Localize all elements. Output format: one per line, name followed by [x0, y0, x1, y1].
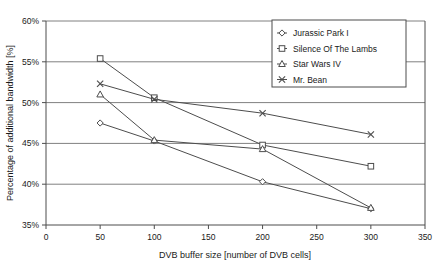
x-tick-label: 0 — [44, 232, 49, 242]
y-axis-title: Percentage of additional bandwidth [%] — [5, 45, 15, 201]
line-chart: 35%40%45%50%55%60% 050100150200250300350… — [0, 0, 438, 267]
legend-label: Jurassic Park I — [293, 28, 349, 38]
y-tick-label: 40% — [22, 179, 39, 189]
data-point-marker — [368, 163, 374, 169]
legend-label: Mr. Bean — [293, 75, 327, 85]
y-tick-label: 35% — [22, 220, 39, 230]
data-point-marker — [97, 56, 103, 62]
y-tick-label: 55% — [22, 57, 39, 67]
chart-container: 35%40%45%50%55%60% 050100150200250300350… — [0, 0, 438, 267]
legend-marker-square — [279, 46, 285, 52]
x-tick-label: 200 — [255, 232, 269, 242]
x-tick-label: 100 — [147, 232, 161, 242]
x-tick-label: 250 — [310, 232, 324, 242]
x-tick-label: 300 — [364, 232, 378, 242]
y-tick-label: 50% — [22, 98, 39, 108]
x-axis-title: DVB buffer size [number of DVB cells] — [159, 250, 311, 260]
y-tick-label: 45% — [22, 138, 39, 148]
x-tick-label: 50 — [95, 232, 105, 242]
legend-label: Star Wars IV — [293, 59, 341, 69]
x-tick-label: 350 — [418, 232, 432, 242]
chart-legend: Jurassic Park ISilence Of The LambsStar … — [272, 20, 406, 87]
x-tick-label: 150 — [201, 232, 215, 242]
y-tick-label: 60% — [22, 16, 39, 26]
legend-label: Silence Of The Lambs — [293, 44, 377, 54]
